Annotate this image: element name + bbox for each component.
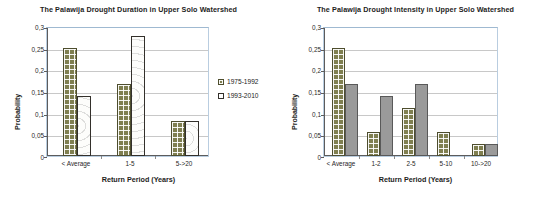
- bar-1975-1992: [402, 108, 415, 156]
- legend-swatch-icon: [218, 93, 224, 99]
- bar-1975-1992: [367, 132, 380, 156]
- x-tick-label: 1-2: [371, 160, 380, 167]
- y-tick-mark: [44, 157, 47, 158]
- bar-1975-1992: [117, 84, 131, 156]
- x-axis-tick-labels: < Average 1-5 5->20: [0, 160, 277, 172]
- y-tick-label: 0,3: [312, 24, 321, 31]
- x-tick-label: 5->20: [176, 160, 193, 167]
- y-axis-tick-labels: 0 0,05 0,1 0,15 0,2 0,25 0,3: [18, 27, 44, 157]
- bar-1993-2010: [380, 96, 393, 156]
- x-axis-title: Return Period (Years): [20, 175, 257, 184]
- legend-item: 1993-2010: [218, 90, 259, 101]
- bar-1993-2010: [131, 36, 145, 156]
- x-tick-mark: [155, 156, 156, 159]
- bar-1975-1992: [472, 144, 485, 156]
- y-tick-label: 0,25: [309, 45, 321, 52]
- y-tick-label: 0,25: [32, 45, 44, 52]
- bar-1993-2010: [485, 144, 498, 156]
- y-tick-label: 0,2: [35, 67, 44, 74]
- legend-item: 1975-1992: [218, 76, 259, 87]
- bar-1975-1992: [63, 48, 77, 156]
- x-axis-tick-labels: < Average 1-2 2-5 5-10 10->20: [277, 160, 554, 172]
- bar-1975-1992: [171, 121, 185, 157]
- x-tick-label: < Average: [62, 160, 91, 167]
- plot-background: [323, 27, 498, 157]
- bar-1993-2010: [77, 96, 91, 156]
- chart-intensity: The Palawija Drought Intensity in Upper …: [277, 0, 554, 200]
- x-tick-mark: [464, 156, 465, 159]
- x-tick-mark: [394, 156, 395, 159]
- chart-title: The Palawija Drought Intensity in Upper …: [277, 5, 554, 14]
- y-tick-label: 0,1: [312, 110, 321, 117]
- bar-group-container: [324, 28, 497, 156]
- chart-title: The Palawija Drought Duration in Upper S…: [0, 5, 277, 14]
- x-axis-title: Return Period (Years): [297, 175, 534, 184]
- y-tick-label: 0,05: [32, 132, 44, 139]
- legend-label: 1993-2010: [227, 92, 259, 99]
- bar-1993-2010: [185, 121, 199, 157]
- x-tick-mark: [359, 156, 360, 159]
- y-tick-label: 0,05: [309, 132, 321, 139]
- bar-1975-1992: [332, 48, 345, 156]
- x-tick-label: 5-10: [440, 160, 453, 167]
- legend-label: 1975-1992: [227, 78, 259, 85]
- y-tick-label: 0,2: [312, 67, 321, 74]
- x-tick-mark: [429, 156, 430, 159]
- chart-duration: The Palawija Drought Duration in Upper S…: [0, 0, 277, 200]
- y-tick-label: 0,15: [309, 89, 321, 96]
- bar-1993-2010: [345, 84, 358, 156]
- x-tick-label: 1-5: [125, 160, 134, 167]
- y-tick-mark: [321, 157, 324, 158]
- y-tick-label: 0,1: [35, 110, 44, 117]
- x-tick-mark: [101, 156, 102, 159]
- legend-swatch-icon: [218, 79, 224, 85]
- figure-panel: The Palawija Drought Duration in Upper S…: [0, 0, 554, 200]
- plot-area: [46, 27, 209, 157]
- y-axis-tick-labels: 0 0,05 0,1 0,15 0,2 0,25 0,3: [295, 27, 321, 157]
- y-tick-label: 0,15: [32, 89, 44, 96]
- x-tick-label: 10->20: [471, 160, 491, 167]
- bar-group-container: [47, 28, 208, 156]
- legend: 1975-1992 1993-2010: [218, 76, 259, 104]
- bar-1993-2010: [415, 84, 428, 156]
- x-tick-label: < Average: [327, 160, 356, 167]
- y-tick-label: 0,3: [35, 24, 44, 31]
- plot-area: [323, 27, 498, 157]
- bar-1975-1992: [437, 132, 450, 156]
- plot-background: [46, 27, 209, 157]
- x-tick-label: 2-5: [406, 160, 415, 167]
